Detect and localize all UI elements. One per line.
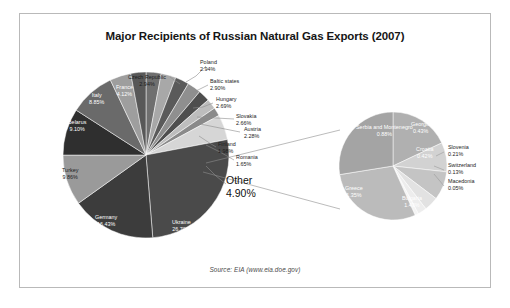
label-poland: Poland 2.94%: [200, 59, 217, 73]
label-switzerland: Switzerland 0.13%: [448, 162, 476, 176]
page-title: Major Recipients of Russian Natural Gas …: [20, 30, 490, 42]
label-italy: Italy 8.85%: [89, 92, 104, 106]
label-romania: Romania 1.65%: [236, 154, 258, 168]
label-turkey: Turkey 9.86%: [62, 167, 78, 181]
label-slovakia: Slovakia 2.66%: [236, 113, 257, 127]
label-hungary: Hungary 2.69%: [216, 96, 237, 110]
label-georgia: Georgia 0.43%: [411, 121, 430, 135]
source-caption: Source: EIA (www.eia.doe.gov): [20, 266, 490, 273]
chart-frame: Major Recipients of Russian Natural Gas …: [19, 13, 491, 288]
label-greece: Greece 1.35%: [345, 185, 363, 199]
main-pie-chart: [62, 71, 230, 239]
label-austria: Austria 2.28%: [244, 126, 261, 140]
label-ukraine: Ukraine 26.70%: [172, 219, 191, 233]
label-bulgaria: Bulgaria 1.43%: [402, 195, 422, 209]
label-germany: Germany 16.43%: [95, 214, 117, 228]
label-other-callout: Other 4.90%: [226, 174, 256, 200]
label-slovenia: Slovenia 0.21%: [448, 144, 469, 158]
label-croatia: Croatia 0.42%: [416, 146, 434, 160]
label-belarus: Belarus 9.10%: [68, 119, 86, 133]
label-serbia-and-montenegro: Serbia and Montenegro 0.88%: [356, 124, 413, 138]
label-france: France 4.12%: [116, 84, 133, 98]
other-pie-slice-greece: [339, 112, 393, 175]
main-pie-svg: [62, 71, 230, 239]
label-czech-republic: Czech Republic 2.94%: [128, 74, 166, 88]
label-macedonia: Macedonia 0.05%: [448, 178, 475, 192]
label-baltic-states: Baltic states 2.90%: [210, 78, 239, 92]
chart-page: Major Recipients of Russian Natural Gas …: [0, 0, 510, 308]
label-finland: Finland 1.98%: [218, 141, 236, 155]
